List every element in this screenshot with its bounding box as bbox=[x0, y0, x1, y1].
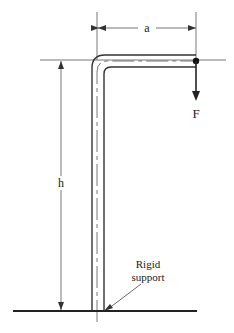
support-label-line2: support bbox=[132, 271, 165, 283]
bent-pipe-diagram: a F h Rigid support bbox=[0, 0, 234, 333]
dimension-a-label: a bbox=[144, 21, 150, 35]
support-label-line1: Rigid bbox=[136, 258, 161, 270]
force-label: F bbox=[192, 106, 199, 121]
dimension-h: h bbox=[58, 61, 64, 310]
support-leader-arrow bbox=[104, 304, 113, 311]
dimension-a: a bbox=[98, 21, 196, 35]
dimension-h-label: h bbox=[58, 176, 64, 190]
support-leader-line bbox=[108, 284, 141, 309]
